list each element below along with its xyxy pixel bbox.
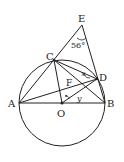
angle-mark-dot [65, 95, 67, 97]
label-f: F [66, 78, 72, 88]
angle-e-arc [77, 38, 86, 40]
geometry-diagram: E 56° C D F x y A B O [0, 0, 124, 162]
label-b: B [107, 98, 114, 109]
label-o: O [57, 108, 65, 119]
segment-cd [54, 60, 97, 79]
label-angle-e: 56° [71, 41, 85, 50]
segment-oc [54, 60, 62, 103]
point-o-dot [61, 102, 64, 105]
label-y: y [76, 94, 82, 103]
label-a: A [7, 98, 16, 109]
label-x: x [81, 69, 86, 78]
segment-eb [82, 25, 105, 103]
label-d: D [99, 72, 107, 83]
point-d-dot [96, 78, 99, 81]
label-e: E [78, 13, 85, 24]
label-c: C [46, 51, 54, 62]
segment-ae [19, 25, 82, 103]
